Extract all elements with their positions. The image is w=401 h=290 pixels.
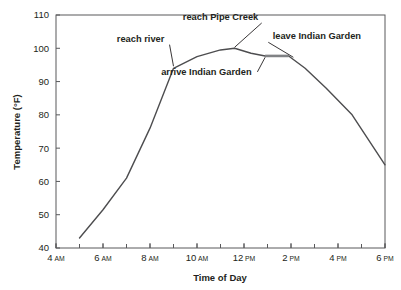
annotation-leader-arrive-indian-garden — [257, 57, 265, 72]
annotation-label-reach-pipe-creek: reach Pipe Creek — [183, 12, 259, 22]
y-axis-title: Temperature (°F) — [11, 94, 22, 169]
x-tick-label: 10AM — [186, 252, 209, 263]
annotation-labels: reach Pipe Creekreach riverarrive Indian… — [117, 12, 362, 77]
x-tick-label: 2PM — [282, 252, 300, 263]
annotation-label-reach-river: reach river — [117, 34, 165, 44]
x-axis-minor-ticks — [56, 244, 385, 248]
y-tick-label: 80 — [38, 109, 49, 120]
annotation-leader-reach-river — [170, 45, 174, 67]
x-tick-label: 4AM — [47, 252, 65, 263]
x-tick-label: 4PM — [329, 252, 347, 263]
y-tick-label: 100 — [33, 43, 49, 54]
y-tick-label: 70 — [38, 143, 49, 154]
y-tick-label: 50 — [38, 209, 49, 220]
x-axis-title: Time of Day — [193, 272, 247, 283]
y-tick-label: 90 — [38, 76, 49, 87]
x-tick-label: 6PM — [376, 252, 394, 263]
y-axis-ticks — [56, 15, 60, 248]
x-tick-label: 12PM — [233, 252, 256, 263]
chart-canvas: 405060708090100110 4AM6AM8AM10AM12PM2PM4… — [0, 0, 401, 290]
x-axis-tick-labels: 4AM6AM8AM10AM12PM2PM4PM6PM — [47, 252, 394, 263]
y-tick-label: 110 — [34, 9, 49, 20]
y-tick-label: 60 — [38, 176, 49, 187]
y-axis-tick-labels: 405060708090100110 — [33, 9, 49, 253]
x-tick-label: 6AM — [94, 252, 112, 263]
annotation-leader-reach-pipe-creek — [235, 23, 262, 47]
temperature-chart: 405060708090100110 4AM6AM8AM10AM12PM2PM4… — [0, 0, 401, 290]
annotation-label-leave-indian-garden: leave Indian Garden — [273, 31, 362, 41]
x-tick-label: 8AM — [141, 252, 159, 263]
annotation-label-arrive-indian-garden: arrive Indian Garden — [161, 67, 252, 77]
